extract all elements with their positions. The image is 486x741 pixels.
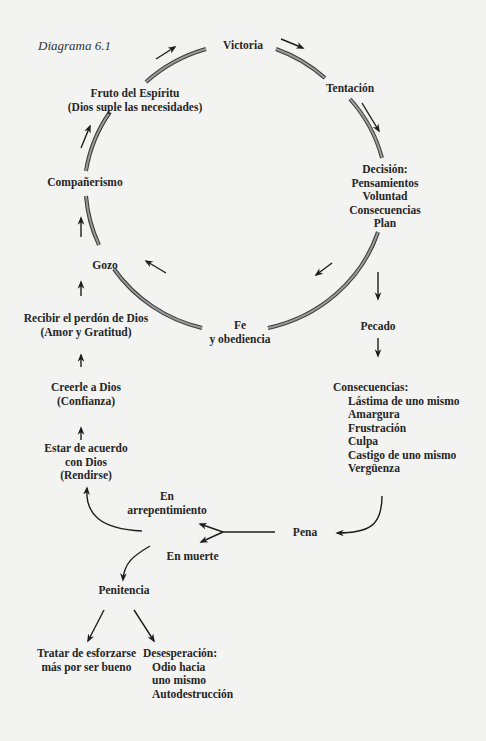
node-tentacion: Tentación — [310, 82, 390, 96]
ring-segment-decision-fe — [268, 232, 378, 328]
ring-segment-companerismo-fruto — [86, 112, 110, 171]
node-pena: Pena — [285, 526, 325, 540]
arrow-down-left-icon — [316, 263, 332, 275]
node-creerle-dios: Creerle a Dios (Confianza) — [36, 381, 136, 408]
node-victoria: Victoria — [213, 39, 273, 53]
node-penitencia: Penitencia — [92, 584, 156, 598]
node-consecuencias: Consecuencias: Lástima de uno mismo Amar… — [333, 381, 483, 476]
node-arrepentimiento: En arrepentimiento — [117, 490, 217, 517]
arrow-to-muerte-icon — [201, 532, 223, 542]
arrow-curve-to-penitencia-icon — [123, 546, 150, 580]
node-desesperacion: Desesperación: Odio hacia uno mismo Auto… — [143, 647, 243, 701]
node-recibir-perdon: Recibir el perdón de Dios (Amor y Gratit… — [16, 312, 156, 339]
arrow-to-tratar-icon — [88, 610, 104, 641]
arrow-up-right-icon — [156, 47, 175, 59]
ring-segment-gozo-companerismo — [86, 196, 99, 245]
node-decision: Decisión: Pensamientos Voluntad Consecue… — [335, 163, 435, 231]
diagram-caption: Diagrama 6.1 — [38, 38, 111, 54]
node-fe-obediencia: Fe y obediencia — [195, 319, 285, 346]
node-estar-acuerdo: Estar de acuerdo con Dios (Rendirse) — [31, 442, 141, 483]
arrow-to-arrepentimiento-icon — [200, 524, 223, 532]
node-tratar-esforzarse: Tratar de esforzarse más por ser bueno — [34, 647, 139, 674]
node-fruto-espiritu: Fruto del Espíritu (Dios suple las neces… — [55, 87, 215, 114]
ring-segment-fruto-victoria — [146, 49, 206, 82]
arrow-up-left-icon — [146, 261, 166, 273]
arrow-up-icon — [81, 126, 90, 148]
ring-segment-victoria-tentacion — [276, 49, 325, 78]
arrow-down-right-icon — [281, 39, 303, 48]
node-muerte: En muerte — [155, 550, 230, 564]
consecuencias-list: Lástima de uno mismo Amargura Frustració… — [333, 395, 483, 476]
desesperacion-list: Odio hacia uno mismo Autodestrucción — [143, 661, 243, 702]
node-companerismo: Compañerismo — [40, 176, 130, 190]
arrow-curve-to-pena-icon — [337, 496, 382, 533]
arrow-to-desesperacion-icon — [134, 610, 154, 641]
node-pecado: Pecado — [350, 320, 406, 334]
node-gozo: Gozo — [80, 259, 130, 273]
